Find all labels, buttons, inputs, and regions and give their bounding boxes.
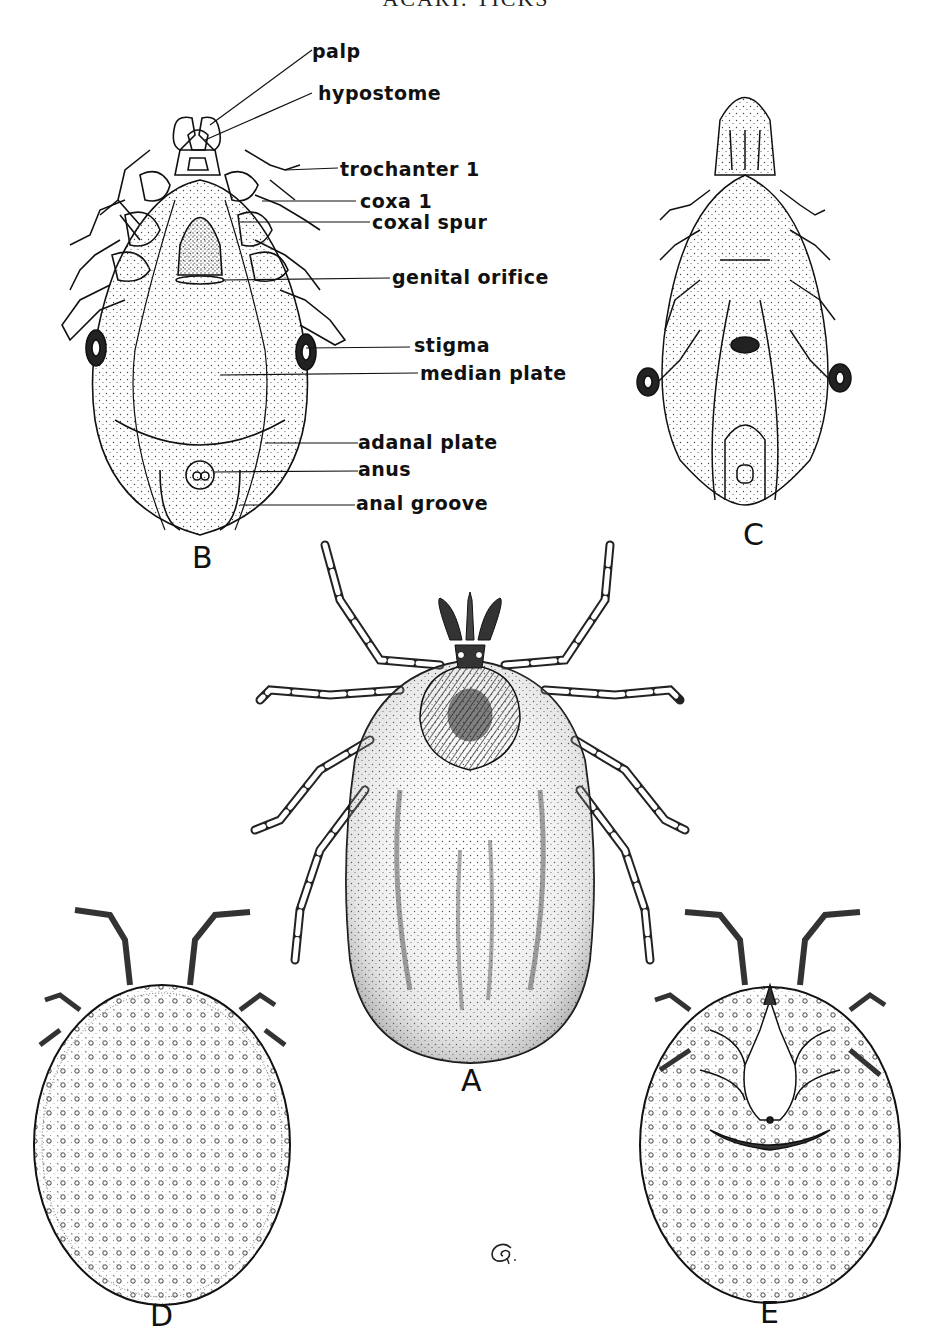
label-median-plate: median plate xyxy=(420,362,567,384)
figure-d-diagram xyxy=(34,910,290,1305)
label-coxa-1: coxa 1 xyxy=(360,190,432,212)
plate-illustrations xyxy=(0,0,932,1339)
artist-monogram-icon xyxy=(487,1240,521,1266)
figure-letter-c: C xyxy=(743,517,764,552)
label-coxal-spur: coxal spur xyxy=(372,211,487,233)
figure-e-diagram xyxy=(640,912,900,1303)
label-hypostome: hypostome xyxy=(318,82,441,104)
figure-a-diagram xyxy=(255,545,685,1063)
label-stigma: stigma xyxy=(414,334,490,356)
label-genital-orifice: genital orifice xyxy=(392,266,549,288)
figure-letter-e: E xyxy=(760,1295,779,1330)
label-palp: palp xyxy=(312,40,361,62)
figure-c-diagram xyxy=(637,98,851,506)
figure-letter-a: A xyxy=(461,1063,482,1098)
label-adanal-plate: adanal plate xyxy=(358,431,498,453)
figure-letter-b: B xyxy=(192,540,213,575)
figure-b-diagram xyxy=(62,117,345,535)
label-anus: anus xyxy=(358,458,411,480)
label-anal-groove: anal groove xyxy=(356,492,488,514)
figure-letter-d: D xyxy=(150,1298,173,1333)
label-trochanter-1: trochanter 1 xyxy=(340,158,480,180)
